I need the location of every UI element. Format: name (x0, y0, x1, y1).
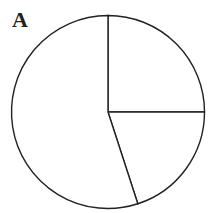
figure-panel: A (0, 0, 212, 213)
pie-chart (0, 0, 212, 213)
pie-slice (108, 16, 205, 113)
